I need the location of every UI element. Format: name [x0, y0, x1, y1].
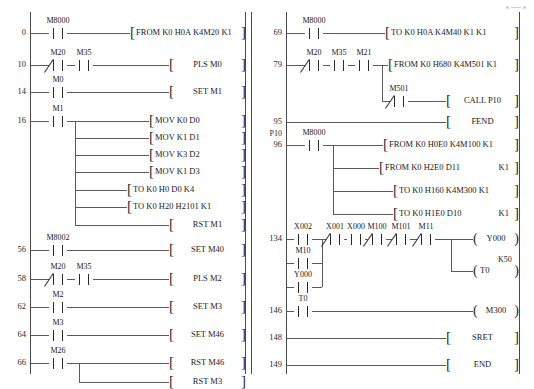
- contact-m35-b[interactable]: M35: [75, 272, 93, 286]
- step-number: 95: [260, 117, 282, 126]
- coil-t0[interactable]: K50 ( T0 ): [473, 264, 519, 278]
- contact-m35[interactable]: M35: [75, 58, 93, 72]
- right-column-right-rail: [519, 12, 520, 374]
- branch-trunk: [382, 65, 383, 101]
- coil-y000[interactable]: ( Y000 ): [473, 232, 519, 246]
- step-number: 10: [4, 60, 26, 69]
- instruction-rst-m3[interactable]: [ RST M3 ]: [169, 375, 246, 389]
- instruction-set-m40[interactable]: [ SET M40 ]: [169, 243, 246, 257]
- instruction-set-m46[interactable]: [ SET M46 ]: [169, 328, 246, 342]
- left-column-outer-rail: [251, 12, 252, 374]
- step-number: 66: [4, 358, 26, 367]
- contact-t0[interactable]: T0: [294, 304, 312, 318]
- step-number: 14: [4, 87, 26, 96]
- step-number: 69: [260, 28, 282, 37]
- step-number: 146: [260, 306, 282, 315]
- instruction-rst-m46[interactable]: [ RST M46 ]: [169, 356, 246, 370]
- contact-m20[interactable]: M20: [49, 58, 67, 72]
- instruction-pls-m2[interactable]: [ PLS M2 ]: [169, 272, 246, 286]
- step-number: 56: [4, 245, 26, 254]
- right-power-rail: [286, 12, 287, 374]
- right-program-column: 69 M8000 [ TO K0 H0A K4M40 K1 K1 ] 79 M2…: [260, 12, 530, 374]
- contact-m8000[interactable]: M8000: [49, 26, 67, 40]
- instruction-to-k4m40[interactable]: [ TO K0 H0A K4M40 K1 K1 ]: [385, 26, 519, 40]
- contact-m35-r[interactable]: M35: [330, 58, 348, 72]
- instruction-to-h0[interactable]: [ TO K0 H0 D0 K4 ]: [127, 183, 246, 197]
- contact-m8002[interactable]: M8002: [49, 243, 67, 257]
- contact-m10[interactable]: M10: [294, 256, 312, 270]
- contact-m21[interactable]: M21: [355, 58, 373, 72]
- pointer-label-p10: P10: [260, 130, 282, 138]
- coil-branch: [451, 239, 452, 271]
- step-number: 64: [4, 330, 26, 339]
- instruction-mov-k1-d1[interactable]: [ MOV K1 D1 ]: [149, 131, 246, 145]
- left-program-column: 0 M8000 [ FROM K0 H0A K4M20 K1 ] 10 M20: [4, 12, 256, 374]
- step-number: 16: [4, 116, 26, 125]
- step-number: 134: [260, 234, 282, 243]
- contact-m1[interactable]: M1: [49, 114, 67, 128]
- instruction-fend[interactable]: [ FEND ]: [446, 115, 519, 129]
- instruction-from[interactable]: [ FROM K0 H0A K4M20 K1 ]: [130, 26, 246, 40]
- contact-x001[interactable]: X001: [326, 232, 344, 246]
- left-power-rail: [30, 12, 31, 374]
- contact-m101[interactable]: M101: [392, 232, 410, 246]
- instruction-mov-k0-d0[interactable]: [ MOV K0 D0 ]: [149, 114, 246, 128]
- instruction-from-h2e0[interactable]: [ FROM K0 H2E0 D11 K1 ]: [379, 161, 519, 175]
- instruction-mov-k1-d3[interactable]: [ MOV K1 D3 ]: [149, 165, 246, 179]
- step-number: 149: [260, 360, 282, 369]
- contact-m20-b[interactable]: M20: [49, 272, 67, 286]
- contact-x002[interactable]: X002: [294, 232, 312, 246]
- contact-m11[interactable]: M11: [417, 232, 435, 246]
- step-number: 79: [260, 60, 282, 69]
- contact-m3[interactable]: M3: [49, 328, 67, 342]
- step-number: 0: [4, 28, 26, 37]
- branch-trunk: [333, 145, 334, 214]
- contact-m100[interactable]: M100: [368, 232, 386, 246]
- contact-m8000-p10[interactable]: M8000: [305, 138, 323, 152]
- contact-m8000-r[interactable]: M8000: [305, 26, 323, 40]
- step-number: 62: [4, 302, 26, 311]
- corner-registration-mark: [506, 6, 526, 9]
- instruction-end[interactable]: [ END ]: [446, 358, 519, 372]
- step-number: 148: [260, 333, 282, 342]
- contact-x000[interactable]: X000: [347, 232, 365, 246]
- instruction-mov-k3-d2[interactable]: [ MOV K3 D2 ]: [149, 148, 246, 162]
- step-number: 58: [4, 274, 26, 283]
- step-number: 96: [260, 140, 282, 149]
- contact-y000-seal[interactable]: Y000: [294, 280, 312, 294]
- coil-m300[interactable]: ( M300 ): [473, 304, 519, 318]
- branch-trunk: [79, 363, 80, 382]
- instruction-to-h160[interactable]: [ TO K0 H160 K4M300 K1 ]: [393, 184, 519, 198]
- instruction-set-m3[interactable]: [ SET M3 ]: [169, 300, 246, 314]
- instruction-to-h20[interactable]: [ TO K0 H20 H2101 K1 ]: [127, 200, 246, 214]
- branch-trunk: [75, 121, 76, 225]
- contact-m20-r[interactable]: M20: [305, 58, 323, 72]
- instruction-pls-m0[interactable]: [ PLS M0 ]: [169, 58, 246, 72]
- instruction-to-h1e0[interactable]: [ TO K0 H1E0 D10 K1 ]: [393, 207, 519, 221]
- instruction-sret[interactable]: [ SRET ]: [446, 331, 519, 345]
- contact-m26[interactable]: M26: [49, 356, 67, 370]
- instruction-set-m1[interactable]: [ SET M1 ]: [169, 85, 246, 99]
- contact-m501[interactable]: M501: [390, 94, 408, 108]
- instruction-rst-m1[interactable]: [ RST M1 ]: [169, 218, 246, 232]
- instruction-from-h0e0[interactable]: [ FROM K0 H0E0 K4M100 K1 ]: [383, 138, 519, 152]
- contact-m0[interactable]: M0: [49, 85, 67, 99]
- instruction-from-h680[interactable]: [ FROM K0 H680 K4M501 K1 ]: [388, 58, 519, 72]
- contact-m2[interactable]: M2: [49, 300, 67, 314]
- instruction-call-p10[interactable]: [ CALL P10 ]: [446, 94, 519, 108]
